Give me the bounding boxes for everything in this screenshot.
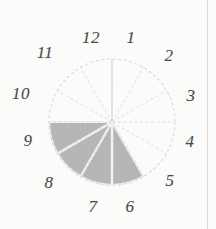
clock-pie-svg <box>0 0 216 229</box>
clock-pie-figure: 121234567891011 <box>0 0 216 229</box>
hour-label-5: 5 <box>166 172 175 189</box>
hour-label-11: 11 <box>37 44 54 61</box>
hour-label-8: 8 <box>45 174 54 191</box>
hour-label-7: 7 <box>89 198 98 215</box>
hour-label-6: 6 <box>126 198 135 215</box>
hour-label-3: 3 <box>187 87 196 104</box>
hour-label-12: 12 <box>82 29 100 46</box>
hour-label-10: 10 <box>12 85 30 102</box>
hour-label-4: 4 <box>186 133 195 150</box>
hour-label-1: 1 <box>127 29 136 46</box>
spoke-line-11 <box>81 67 113 122</box>
spoke-line-10 <box>57 91 112 123</box>
spoke-line-2 <box>112 91 167 123</box>
spoke-line-1 <box>112 67 144 122</box>
hour-label-2: 2 <box>165 47 174 64</box>
hour-label-9: 9 <box>24 132 33 149</box>
figure-page: 121234567891011 <box>0 0 216 229</box>
